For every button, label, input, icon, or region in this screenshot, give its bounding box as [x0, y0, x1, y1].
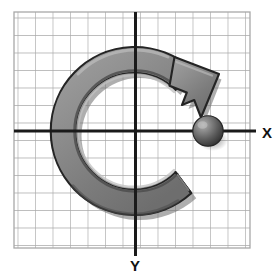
- figure-canvas: X Y: [0, 0, 277, 276]
- sphere-specular-highlight: [198, 121, 208, 129]
- x-axis-label: X: [262, 124, 272, 141]
- sphere-body: [193, 116, 223, 146]
- y-axis-label: Y: [130, 257, 140, 274]
- diagram-svg: X Y: [0, 0, 277, 276]
